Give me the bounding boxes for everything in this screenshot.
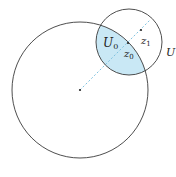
- center-point: [79, 89, 81, 91]
- diagram-canvas: U0 z0 z1 U: [0, 0, 176, 177]
- point-z0: [127, 42, 129, 44]
- label-u: U: [166, 46, 176, 59]
- dashed-line: [80, 20, 150, 90]
- point-z1: [140, 29, 142, 31]
- label-z1: z1: [140, 35, 151, 48]
